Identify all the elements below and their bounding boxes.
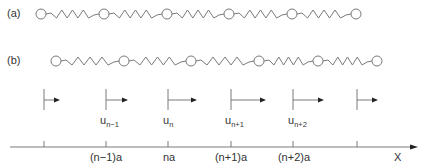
panel-b-mass xyxy=(313,56,323,66)
panel-b-mass xyxy=(51,56,61,66)
panel-b-mass xyxy=(186,56,196,66)
panel-a-spring xyxy=(297,10,351,18)
axis-tick-label-n: na xyxy=(163,151,175,163)
panel-b-spring xyxy=(323,57,372,65)
displacement-label-u-n-plus-1: un+1 xyxy=(225,114,244,129)
displacement-label-u-n-minus-1: un−1 xyxy=(100,114,119,129)
diagram-graphics xyxy=(0,0,429,168)
displacement-label-u-n-plus-2: un+2 xyxy=(288,114,307,129)
panel-a-label: (a) xyxy=(7,7,20,19)
panel-a-spring xyxy=(172,10,224,18)
arrow-head-icon xyxy=(191,98,197,103)
panel-a-spring xyxy=(46,10,99,18)
arrow-head-icon xyxy=(372,98,378,103)
panel-b-mass xyxy=(254,56,264,66)
panel-b-spring xyxy=(129,57,186,65)
panel-b-mass xyxy=(372,56,382,66)
panel-a-mass xyxy=(224,9,234,19)
panel-a-mass xyxy=(36,9,46,19)
axis-tick-label-n-minus-1: (n−1)a xyxy=(90,151,122,163)
panel-b-spring xyxy=(196,57,254,65)
panel-b-spring xyxy=(264,57,313,65)
axis-tick-label-n-plus-1: (n+1)a xyxy=(215,151,247,163)
arrow-head-icon xyxy=(54,98,60,103)
arrow-head-icon xyxy=(318,98,324,103)
arrow-head-icon xyxy=(122,98,128,103)
panel-b-mass xyxy=(119,56,129,66)
panel-a-spring xyxy=(234,10,287,18)
panel-a-mass xyxy=(99,9,109,19)
panel-a-mass xyxy=(162,9,172,19)
x-axis-arrow-icon xyxy=(410,145,418,150)
panel-a-mass xyxy=(351,9,361,19)
lattice-diagram: (a) (b) un−1 un un+1 un+2 (n−1)a na (n+1… xyxy=(0,0,429,168)
arrow-head-icon xyxy=(260,98,266,103)
axis-tick-label-n-plus-2: (n+2)a xyxy=(278,151,310,163)
panel-b-label: (b) xyxy=(7,54,20,66)
panel-a-spring xyxy=(109,10,162,18)
panel-a-mass xyxy=(287,9,297,19)
displacement-label-u-n: un xyxy=(163,114,173,129)
axis-label-x: X xyxy=(394,151,401,163)
panel-b-spring xyxy=(61,57,119,65)
